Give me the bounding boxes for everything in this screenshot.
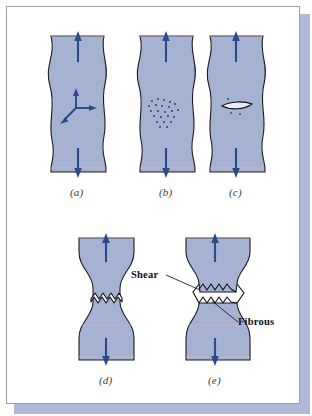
panel-b xyxy=(137,31,195,178)
specimen-upper-e xyxy=(186,238,250,292)
specimen-lower-e xyxy=(186,303,250,360)
caption-panel-d: (d) xyxy=(99,374,112,386)
panel-d xyxy=(79,233,134,366)
figure-root: (a) (b) (c) (d) (e) Shear Fibrous xyxy=(0,0,312,416)
caption-panel-c: (c) xyxy=(229,186,242,198)
caption-panel-b: (b) xyxy=(159,186,172,198)
panel-e xyxy=(166,233,250,366)
fibrous-label: Fibrous xyxy=(238,316,274,327)
fracture-surface-lower-e xyxy=(199,297,237,303)
shear-leader-line xyxy=(166,275,200,290)
figure-illustration xyxy=(0,0,312,416)
panel-a xyxy=(48,31,106,178)
caption-panel-e: (e) xyxy=(208,374,221,386)
shear-label: Shear xyxy=(131,269,158,280)
shear-lip-right-e xyxy=(237,284,244,303)
panel-c xyxy=(207,31,265,178)
caption-panel-a: (a) xyxy=(70,186,83,198)
